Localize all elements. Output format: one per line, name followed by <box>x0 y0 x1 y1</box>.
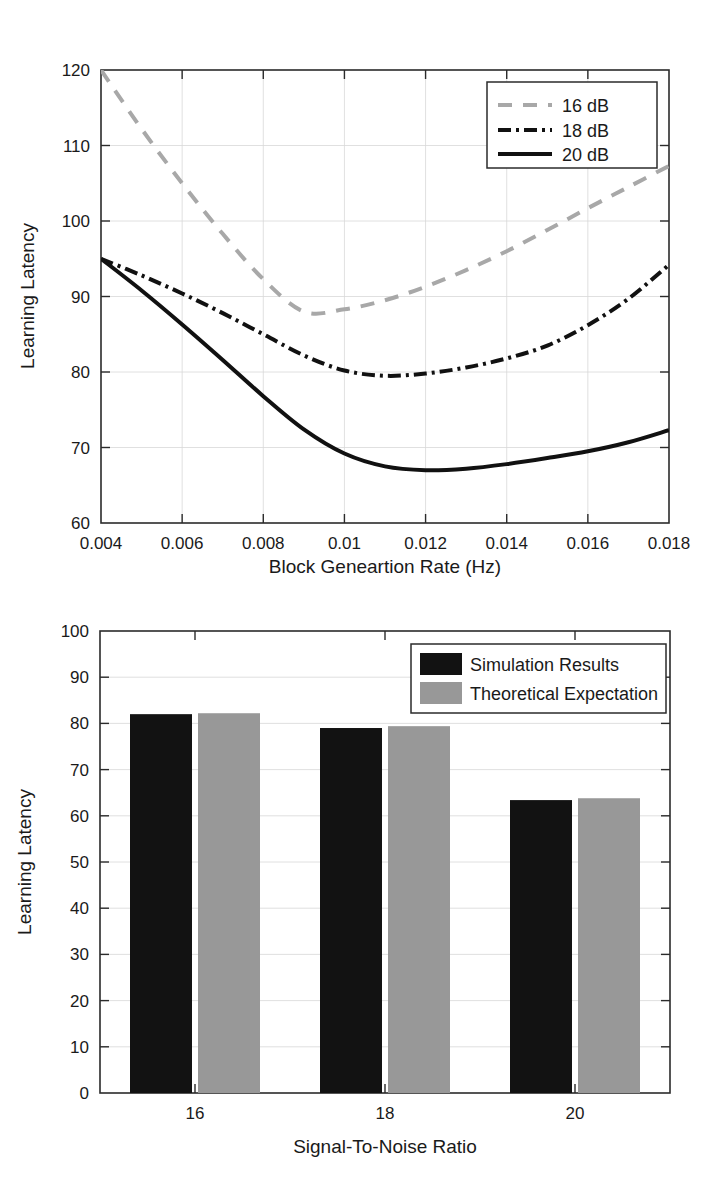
x-tick-label: 20 <box>566 1104 585 1123</box>
bar-chart-x-axis-title: Signal-To-Noise Ratio <box>293 1136 477 1157</box>
bar-simulation-16 <box>130 714 192 1093</box>
legend-swatch-theoretical-expectation <box>420 682 462 704</box>
bar-chart-panel: 0102030405060708090100 161820 Signal-To-… <box>0 592 719 1186</box>
bar-simulation-20 <box>510 800 572 1093</box>
line-chart-panel: 0.0040.0060.0080.010.0120.0140.0160.018 … <box>0 0 719 592</box>
bar-theoretical-18 <box>388 726 450 1093</box>
line-chart-y-tick-labels: 60708090100110120 <box>62 61 90 533</box>
y-tick-label: 70 <box>70 761 89 780</box>
line-chart-x-axis-title: Block Geneartion Rate (Hz) <box>269 556 501 577</box>
y-tick-label: 10 <box>70 1038 89 1057</box>
y-tick-label: 100 <box>62 212 90 231</box>
y-tick-label: 90 <box>71 288 90 307</box>
legend-label-simulation-results: Simulation Results <box>470 655 619 675</box>
legend-label-18db: 18 dB <box>562 121 609 141</box>
bar-chart-legend[interactable]: Simulation Results Theoretical Expectati… <box>411 644 666 713</box>
x-tick-label: 0.016 <box>567 534 610 553</box>
y-tick-label: 0 <box>80 1084 89 1103</box>
x-tick-label: 0.014 <box>485 534 528 553</box>
page-bottom-margin <box>0 1176 719 1186</box>
y-tick-label: 70 <box>71 439 90 458</box>
y-tick-label: 30 <box>70 945 89 964</box>
x-tick-label: 0.006 <box>161 534 204 553</box>
legend-label-16db: 16 dB <box>562 96 609 116</box>
y-tick-label: 50 <box>70 853 89 872</box>
bar-chart-x-tick-labels: 161820 <box>186 1104 585 1123</box>
line-chart-y-axis-title: Learning Latency <box>17 223 38 369</box>
y-tick-label: 80 <box>71 363 90 382</box>
y-tick-label: 90 <box>70 668 89 687</box>
y-tick-label: 120 <box>62 61 90 80</box>
line-chart-legend[interactable]: 16 dB 18 dB 20 dB <box>487 82 657 168</box>
x-tick-label: 16 <box>186 1104 205 1123</box>
bar-chart-svg: 0102030405060708090100 161820 Signal-To-… <box>0 592 719 1186</box>
x-tick-label: 0.008 <box>242 534 285 553</box>
bar-chart-bars <box>130 713 640 1093</box>
legend-swatch-simulation-results <box>420 653 462 675</box>
bar-chart-y-axis-title: Learning Latency <box>14 789 35 935</box>
y-tick-label: 100 <box>61 622 89 641</box>
y-tick-label: 110 <box>63 137 90 156</box>
bar-chart-y-tick-labels: 0102030405060708090100 <box>61 622 89 1103</box>
line-series-18-db <box>101 259 669 376</box>
legend-label-theoretical-expectation: Theoretical Expectation <box>470 684 658 704</box>
line-chart-x-tick-labels: 0.0040.0060.0080.010.0120.0140.0160.018 <box>80 534 691 553</box>
x-tick-label: 0.012 <box>404 534 447 553</box>
y-tick-label: 60 <box>70 807 89 826</box>
line-series-20-db <box>101 259 669 470</box>
x-tick-label: 0.018 <box>648 534 691 553</box>
bar-theoretical-16 <box>198 713 260 1093</box>
legend-label-20db: 20 dB <box>562 145 609 165</box>
line-chart-svg: 0.0040.0060.0080.010.0120.0140.0160.018 … <box>0 0 719 592</box>
y-tick-label: 60 <box>71 514 90 533</box>
x-tick-label: 0.01 <box>328 534 361 553</box>
bar-simulation-18 <box>320 728 382 1093</box>
x-tick-label: 0.004 <box>80 534 123 553</box>
y-tick-label: 80 <box>70 714 89 733</box>
y-tick-label: 20 <box>70 992 89 1011</box>
figure-container: 0.0040.0060.0080.010.0120.0140.0160.018 … <box>0 0 719 1186</box>
x-tick-label: 18 <box>376 1104 395 1123</box>
bar-theoretical-20 <box>578 798 640 1093</box>
y-tick-label: 40 <box>70 899 89 918</box>
